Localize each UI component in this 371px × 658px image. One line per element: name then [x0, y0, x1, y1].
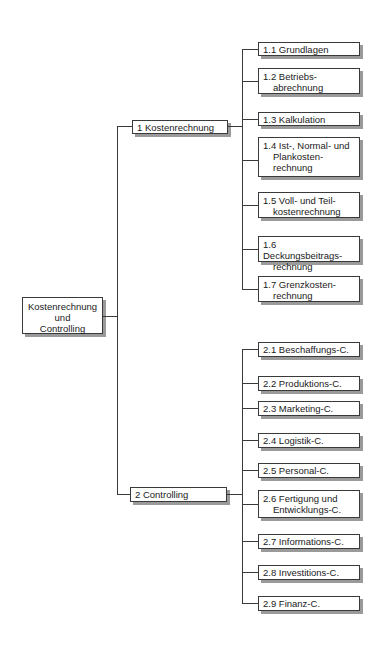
leaf-connector	[242, 349, 258, 350]
leaf-connector	[242, 383, 258, 384]
leaf-connector	[242, 504, 258, 505]
leaf-node-2-5: 2.5 Personal-C.	[258, 463, 360, 478]
leaf-connector	[242, 81, 258, 82]
leaf-label: 1.2 Betriebs-	[263, 71, 317, 82]
leaf-label-cont: rechnung	[263, 290, 355, 301]
branch-1-out-connector	[228, 126, 242, 127]
leaf-label: 1.7 Grenzkosten-	[263, 279, 336, 290]
leaf-connector	[242, 470, 258, 471]
leaf-connector	[242, 119, 258, 120]
root-node: Kostenrechnung und Controlling	[22, 297, 103, 334]
leaf-label: 2.5 Personal-C.	[263, 465, 329, 476]
branch-2-connector	[117, 494, 130, 495]
leaf-label-cont: kostenrechnung	[263, 206, 355, 217]
leaf-label-cont: Plankosten-	[263, 151, 355, 162]
org-chart: Kostenrechnung und Controlling 1 Kostenr…	[0, 0, 371, 658]
leaf-label: 2.7 Informations-C.	[263, 536, 344, 547]
leaf-label: 2.3 Marketing-C.	[263, 403, 333, 414]
leaf-label: 2.6 Fertigung und	[263, 493, 337, 504]
branch-1-sub-trunk	[242, 49, 243, 290]
branch-node-controlling: 2 Controlling	[130, 487, 227, 502]
leaf-label: 1.5 Voll- und Teil-	[263, 195, 336, 206]
leaf-label: 2.8 Investitions-C.	[263, 567, 339, 578]
leaf-connector	[242, 541, 258, 542]
leaf-node-1-6: 1.6 Deckungsbeitrags- rechnung	[258, 236, 360, 262]
leaf-label: 2.2 Produktions-C.	[263, 378, 342, 389]
leaf-label: 1.4 Ist-, Normal- und	[263, 140, 350, 151]
leaf-connector	[242, 603, 258, 604]
leaf-node-2-1: 2.1 Beschaffungs-C.	[258, 342, 360, 357]
root-label-line-3: Controlling	[25, 323, 100, 334]
root-connector	[103, 316, 117, 317]
leaf-label: 1.6 Deckungsbeitrags-	[263, 239, 342, 261]
leaf-label-cont: rechnung	[263, 261, 355, 272]
leaf-label: 1.1 Grundlagen	[263, 44, 329, 55]
root-label-line-2: und	[25, 312, 100, 323]
leaf-connector	[242, 160, 258, 161]
branch-label: 2 Controlling	[135, 489, 188, 500]
leaf-connector	[242, 49, 258, 50]
branch-2-sub-trunk	[242, 349, 243, 604]
leaf-connector	[242, 572, 258, 573]
leaf-node-2-9: 2.9 Finanz-C.	[258, 596, 360, 611]
main-trunk	[117, 126, 118, 495]
leaf-node-1-3: 1.3 Kalkulation	[258, 112, 360, 126]
leaf-connector	[242, 249, 258, 250]
leaf-node-1-7: 1.7 Grenzkosten- rechnung	[258, 276, 360, 302]
leaf-node-2-3: 2.3 Marketing-C.	[258, 401, 360, 416]
branch-1-connector	[117, 126, 132, 127]
leaf-label: 1.3 Kalkulation	[263, 114, 325, 125]
branch-2-out-connector	[227, 494, 242, 495]
leaf-label: 2.1 Beschaffungs-C.	[263, 344, 349, 355]
leaf-label-cont: Entwicklungs-C.	[263, 504, 355, 515]
leaf-label-cont: abrechnung	[263, 82, 355, 93]
leaf-node-1-1: 1.1 Grundlagen	[258, 42, 360, 56]
leaf-node-2-8: 2.8 Investitions-C.	[258, 565, 360, 580]
leaf-node-2-2: 2.2 Produktions-C.	[258, 376, 360, 391]
leaf-connector	[242, 205, 258, 206]
leaf-node-1-2: 1.2 Betriebs- abrechnung	[258, 68, 360, 94]
root-label-line-1: Kostenrechnung	[25, 301, 100, 312]
leaf-node-2-7: 2.7 Informations-C.	[258, 534, 360, 549]
leaf-connector	[242, 408, 258, 409]
leaf-node-1-4: 1.4 Ist-, Normal- und Plankosten- rechnu…	[258, 137, 360, 177]
branch-node-kostenrechnung: 1 Kostenrechnung	[132, 120, 228, 134]
leaf-node-2-6: 2.6 Fertigung und Entwicklungs-C.	[258, 490, 360, 518]
leaf-node-1-5: 1.5 Voll- und Teil- kostenrechnung	[258, 192, 360, 218]
leaf-node-2-4: 2.4 Logistik-C.	[258, 433, 360, 448]
leaf-connector	[242, 289, 258, 290]
leaf-label-cont: rechnung	[263, 162, 355, 173]
leaf-label: 2.4 Logistik-C.	[263, 435, 324, 446]
branch-label: 1 Kostenrechnung	[137, 122, 214, 133]
leaf-label: 2.9 Finanz-C.	[263, 598, 320, 609]
leaf-connector	[242, 440, 258, 441]
